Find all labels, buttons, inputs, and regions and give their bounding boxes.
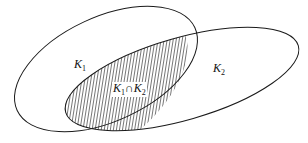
venn-diagram: K1 K2 K1∩K2 (0, 0, 308, 143)
label-intersection: K1∩K2 (112, 82, 147, 97)
ellipses-figure (0, 0, 308, 143)
label-k1: K1 (74, 58, 86, 73)
label-k2: K2 (213, 62, 225, 77)
